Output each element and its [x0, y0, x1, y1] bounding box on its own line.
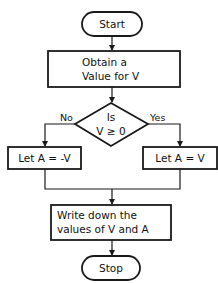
- no-label: No: [60, 112, 73, 123]
- neg-label: Let A = -V: [18, 152, 71, 164]
- stop-node: Stop: [82, 256, 140, 280]
- start-label: Start: [99, 18, 125, 30]
- flowchart: Start Obtain a Value for V Is V ≥ 0 No Y…: [0, 0, 218, 283]
- yes-label: Yes: [149, 112, 165, 123]
- start-node: Start: [82, 12, 142, 36]
- edge-decision-yes: [148, 124, 180, 146]
- decision-node: Is V ≥ 0: [75, 103, 148, 146]
- pos-label: Let A = V: [155, 152, 205, 164]
- stop-label: Stop: [99, 262, 123, 274]
- edge-merge: [45, 169, 180, 189]
- pos-node: Let A = V: [143, 147, 217, 169]
- decision-label-line1: Is: [107, 111, 116, 123]
- write-node: Write down the values of V and A: [51, 205, 171, 240]
- edge-decision-no: [45, 124, 75, 146]
- write-label-line2: values of V and A: [57, 223, 150, 235]
- obtain-node: Obtain a Value for V: [48, 51, 180, 87]
- neg-node: Let A = -V: [8, 147, 81, 169]
- obtain-label-line2: Value for V: [82, 70, 140, 82]
- obtain-label-line1: Obtain a: [82, 56, 127, 68]
- decision-label-line2: V ≥ 0: [96, 125, 125, 137]
- write-label-line1: Write down the: [57, 209, 137, 221]
